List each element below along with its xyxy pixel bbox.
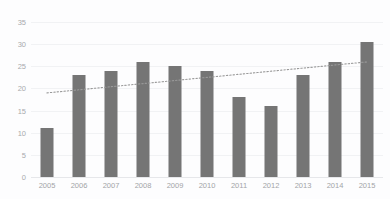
bar-slot-2007: 2007 xyxy=(95,22,127,177)
bar-2013[interactable] xyxy=(297,75,310,177)
bar-2010[interactable] xyxy=(201,71,214,177)
y-tick-label-5: 5 xyxy=(22,152,26,160)
x-tick-label-2014: 2014 xyxy=(327,182,344,190)
x-tick-label-2008: 2008 xyxy=(135,182,152,190)
bar-slot-2009: 2009 xyxy=(159,22,191,177)
x-tick-label-2005: 2005 xyxy=(39,182,56,190)
y-tick-label-30: 30 xyxy=(18,41,26,49)
bar-slot-2008: 2008 xyxy=(127,22,159,177)
bar-slot-2006: 2006 xyxy=(63,22,95,177)
x-tick-label-2011: 2011 xyxy=(231,182,247,190)
bar-2005[interactable] xyxy=(41,128,54,177)
chart-title-clipped xyxy=(63,0,323,4)
y-tick-label-10: 10 xyxy=(18,130,26,138)
bar-slot-2015: 2015 xyxy=(351,22,383,177)
bar-slot-2010: 2010 xyxy=(191,22,223,177)
y-tick-label-25: 25 xyxy=(18,63,26,71)
y-tick-label-35: 35 xyxy=(18,19,26,27)
bar-2011[interactable] xyxy=(233,97,246,177)
y-tick-label-15: 15 xyxy=(18,108,26,116)
bar-slot-2005: 2005 xyxy=(31,22,63,177)
bar-2014[interactable] xyxy=(329,62,342,177)
y-tick-label-0: 0 xyxy=(22,174,26,182)
x-tick-label-2009: 2009 xyxy=(167,182,184,190)
bar-2008[interactable] xyxy=(137,62,150,177)
bar-slot-2011: 2011 xyxy=(223,22,255,177)
gridline-0 xyxy=(31,177,383,178)
x-tick-label-2006: 2006 xyxy=(71,182,88,190)
bar-chart: 05101520253035 2005200620072008200920102… xyxy=(0,0,390,199)
bar-slot-2012: 2012 xyxy=(255,22,287,177)
x-tick-label-2010: 2010 xyxy=(199,182,216,190)
x-tick-label-2015: 2015 xyxy=(359,182,376,190)
bar-2015[interactable] xyxy=(361,42,374,177)
plot-area: 05101520253035 2005200620072008200920102… xyxy=(31,22,383,177)
bars-group: 2005200620072008200920102011201220132014… xyxy=(31,22,383,177)
bar-2009[interactable] xyxy=(169,66,182,177)
bar-slot-2014: 2014 xyxy=(319,22,351,177)
x-tick-label-2013: 2013 xyxy=(295,182,312,190)
bar-2006[interactable] xyxy=(73,75,86,177)
bar-2007[interactable] xyxy=(105,71,118,177)
x-tick-label-2012: 2012 xyxy=(263,182,280,190)
bar-2012[interactable] xyxy=(265,106,278,177)
y-tick-label-20: 20 xyxy=(18,85,26,93)
bar-slot-2013: 2013 xyxy=(287,22,319,177)
x-tick-label-2007: 2007 xyxy=(103,182,120,190)
